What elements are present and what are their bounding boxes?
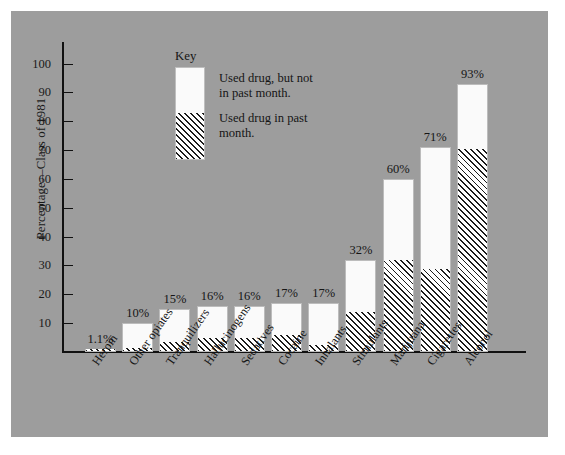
legend-entry-not-past-month-line1: Used drug, but not — [219, 71, 313, 85]
bar-value-label-stimulants: 32% — [335, 243, 386, 258]
legend-hatch-fill — [176, 113, 204, 159]
y-tick-label-40: 40 — [21, 231, 51, 243]
bar-value-label-inhalants: 17% — [298, 286, 349, 301]
y-tick-30 — [64, 265, 73, 266]
y-axis-line — [62, 42, 64, 353]
bar-value-label-marijuana: 60% — [373, 162, 424, 177]
figure-canvas: Percentage—Class of 1981 102030405060708… — [0, 0, 565, 455]
legend-entry-past-month-line1: Used drug in past — [219, 111, 308, 125]
y-tick-80 — [64, 121, 73, 122]
bar-alcohol[interactable] — [457, 84, 488, 352]
legend-entry-not-past-month: Used drug, but not in past month. — [219, 71, 409, 100]
legend-title: Key — [175, 49, 196, 64]
y-tick-70 — [64, 150, 73, 151]
legend-entry-past-month-line2: month. — [219, 126, 254, 140]
y-tick-label-60: 60 — [21, 173, 51, 185]
bar-value-label-cigarettes: 71% — [410, 130, 461, 145]
y-tick-label-90: 90 — [21, 86, 51, 98]
y-tick-label-30: 30 — [21, 259, 51, 271]
legend-entry-past-month: Used drug in past month. — [219, 111, 409, 140]
y-tick-20 — [64, 294, 73, 295]
y-tick-label-70: 70 — [21, 144, 51, 156]
chart-panel: Percentage—Class of 1981 102030405060708… — [11, 11, 548, 437]
y-tick-100 — [64, 64, 73, 65]
bar-value-label-alcohol: 93% — [447, 67, 498, 82]
legend-entry-not-past-month-line2: in past month. — [219, 86, 291, 100]
y-tick-60 — [64, 179, 73, 180]
y-tick-label-50: 50 — [21, 202, 51, 214]
y-tick-10 — [64, 323, 73, 324]
y-tick-label-20: 20 — [21, 288, 51, 300]
y-tick-50 — [64, 208, 73, 209]
y-tick-90 — [64, 92, 73, 93]
bar-cigarettes[interactable] — [420, 147, 451, 352]
y-tick-label-100: 100 — [21, 58, 51, 70]
plot-area: Percentage—Class of 1981 102030405060708… — [11, 11, 548, 437]
y-tick-label-10: 10 — [21, 317, 51, 329]
legend-swatch — [175, 67, 205, 160]
y-tick-40 — [64, 237, 73, 238]
bar-hatch-segment — [458, 149, 487, 351]
y-axis-label: Percentage—Class of 1981 — [34, 44, 49, 294]
y-tick-label-80: 80 — [21, 115, 51, 127]
